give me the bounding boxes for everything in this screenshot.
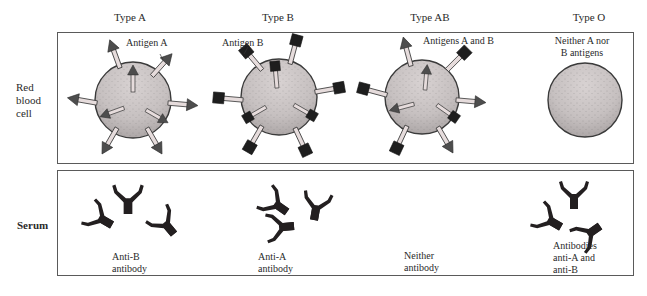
red-blood-cell-type-ab <box>357 35 487 156</box>
label-neither-antibody: Neither antibody <box>404 250 439 274</box>
label-neither-antigen: Neither A nor B antigens <box>540 35 624 59</box>
label-line: Neither A nor <box>540 35 624 47</box>
label-line: antibody <box>258 263 293 275</box>
label-line: Anti-B <box>112 251 147 263</box>
label-antigens-a-and-b: Antigens A and B <box>423 35 494 47</box>
label-antigen-b: Antigen B <box>222 37 263 49</box>
label-line: B antigens <box>540 47 624 59</box>
red-blood-cell-type-o <box>548 63 622 137</box>
red-blood-cell-type-b <box>213 34 346 158</box>
label-text: Antigens A and B <box>423 35 494 46</box>
anti-a-antibody-icon <box>255 184 333 244</box>
anti-b-antibody-icon <box>80 185 185 244</box>
label-anti-b-antibody: Anti-B antibody <box>112 251 147 275</box>
label-line: anti-A and <box>553 252 597 264</box>
label-line: antibody <box>404 262 439 274</box>
label-line: Antibodies <box>553 240 597 252</box>
label-antigen-a: Antigen A <box>126 37 167 49</box>
red-blood-cell-type-a <box>66 38 198 157</box>
label-line: Neither <box>404 250 439 262</box>
label-line: Anti-A <box>258 251 293 263</box>
label-anti-a-antibody: Anti-A antibody <box>258 251 293 275</box>
label-line: anti-B <box>553 264 597 276</box>
label-line: antibody <box>112 263 147 275</box>
label-anti-a-and-anti-b: Antibodies anti-A and anti-B <box>553 240 597 276</box>
